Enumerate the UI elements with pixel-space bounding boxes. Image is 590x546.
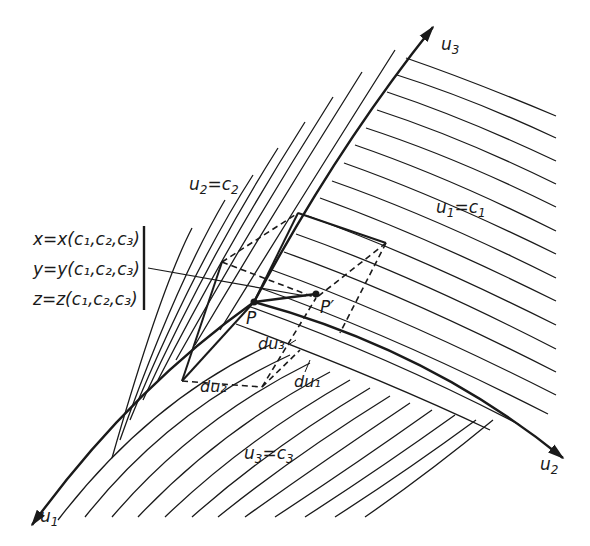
du1-label: du₁ [294,372,321,391]
du1-leader [305,360,310,372]
u3-surface-label: u3=c3 [244,443,294,466]
u1-constant-surface-lines [236,58,556,430]
u1-surface-label: u1=c1 [436,197,486,220]
point-P [251,299,258,306]
equation-y: y=y(c₁,c₂,c₃) [32,259,140,279]
curvilinear-coordinates-diagram: x=x(c₁,c₂,c₃) y=y(c₁,c₂,c₃) z=z(c₁,c₂,c₃… [0,0,590,546]
point-P-prime [313,291,320,298]
u2-axis-label: u2 [540,454,558,477]
u2-constant-surface-lines [112,50,395,458]
point-P-prime-label: P′ [320,297,334,317]
point-P-label: P [246,308,257,328]
u1-axis-label: u1 [40,506,58,529]
du2-label: du₂ [200,377,227,396]
u1-axis [32,302,254,525]
u3-axis-label: u3 [441,34,459,57]
displacement-vector [254,294,316,302]
u2-surface-label: u2=c2 [189,174,239,197]
du3-label: du₃ [258,334,285,353]
equation-x: x=x(c₁,c₂,c₃) [32,229,140,249]
equation-z: z=z(c₁,c₂,c₃) [32,289,138,309]
volume-element [182,213,386,387]
